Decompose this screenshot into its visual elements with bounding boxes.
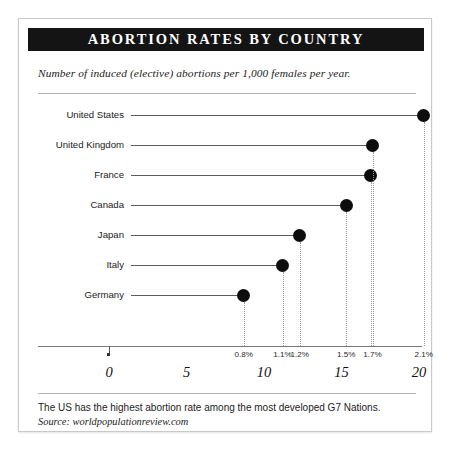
x-tick-label-5: 5	[183, 364, 190, 381]
footer-note: The US has the highest abortion rate amo…	[38, 402, 380, 413]
x-axis-line	[38, 346, 422, 347]
drop-line	[346, 212, 348, 346]
category-label-france: France	[19, 169, 124, 180]
chart-title-bar: ABORTION RATES BY COUNTRY	[28, 28, 424, 51]
data-point-japan[interactable]	[293, 229, 306, 242]
drop-line	[424, 122, 426, 346]
value-stem	[131, 175, 371, 176]
data-point-france[interactable]	[364, 169, 377, 182]
value-stem	[131, 145, 373, 146]
category-label-united-kingdom: United Kingdom	[19, 139, 124, 150]
category-label-italy: Italy	[19, 259, 124, 270]
chart-row: United States	[19, 100, 433, 130]
data-point-canada[interactable]	[340, 199, 353, 212]
page-title: ABORTION RATES BY COUNTRY	[88, 31, 365, 48]
data-point-united-kingdom[interactable]	[366, 139, 379, 152]
data-point-united-states[interactable]	[417, 109, 430, 122]
category-label-canada: Canada	[19, 199, 124, 210]
drop-line	[371, 182, 373, 346]
divider-bottom	[38, 393, 416, 394]
value-stem	[131, 265, 283, 266]
percent-label-1-5pct: 1.5%	[337, 350, 355, 359]
x-tick-label-0: 0	[105, 364, 112, 381]
data-point-germany[interactable]	[237, 289, 250, 302]
category-label-germany: Germany	[19, 289, 124, 300]
drop-line	[244, 302, 246, 346]
chart-row: United Kingdom	[19, 130, 433, 160]
drop-line	[283, 272, 285, 346]
value-stem	[131, 115, 424, 116]
zero-tick-dot	[107, 353, 110, 356]
percent-label-1-7pct: 1.7%	[363, 350, 381, 359]
percent-label-0-8pct: 0.8%	[235, 350, 253, 359]
divider-top	[38, 93, 416, 94]
x-tick-label-20: 20	[412, 364, 427, 381]
footer-source: Source: worldpopulationreview.com	[38, 416, 188, 427]
category-label-united-states: United States	[19, 109, 124, 120]
x-tick-label-10: 10	[257, 364, 272, 381]
chart-subtitle: Number of induced (elective) abortions p…	[38, 67, 351, 79]
x-tick-label-15: 15	[334, 364, 349, 381]
category-label-japan: Japan	[19, 229, 124, 240]
percent-label-2-1pct: 2.1%	[414, 350, 432, 359]
percent-label-1-1pct: 1.1%	[273, 350, 291, 359]
data-point-italy[interactable]	[276, 259, 289, 272]
percent-label-1-2pct: 1.2%	[290, 350, 308, 359]
drop-line	[300, 242, 302, 346]
chart-card: ABORTION RATES BY COUNTRY Number of indu…	[18, 18, 432, 432]
value-stem	[131, 235, 300, 236]
value-stem	[131, 205, 346, 206]
value-stem	[131, 295, 244, 296]
